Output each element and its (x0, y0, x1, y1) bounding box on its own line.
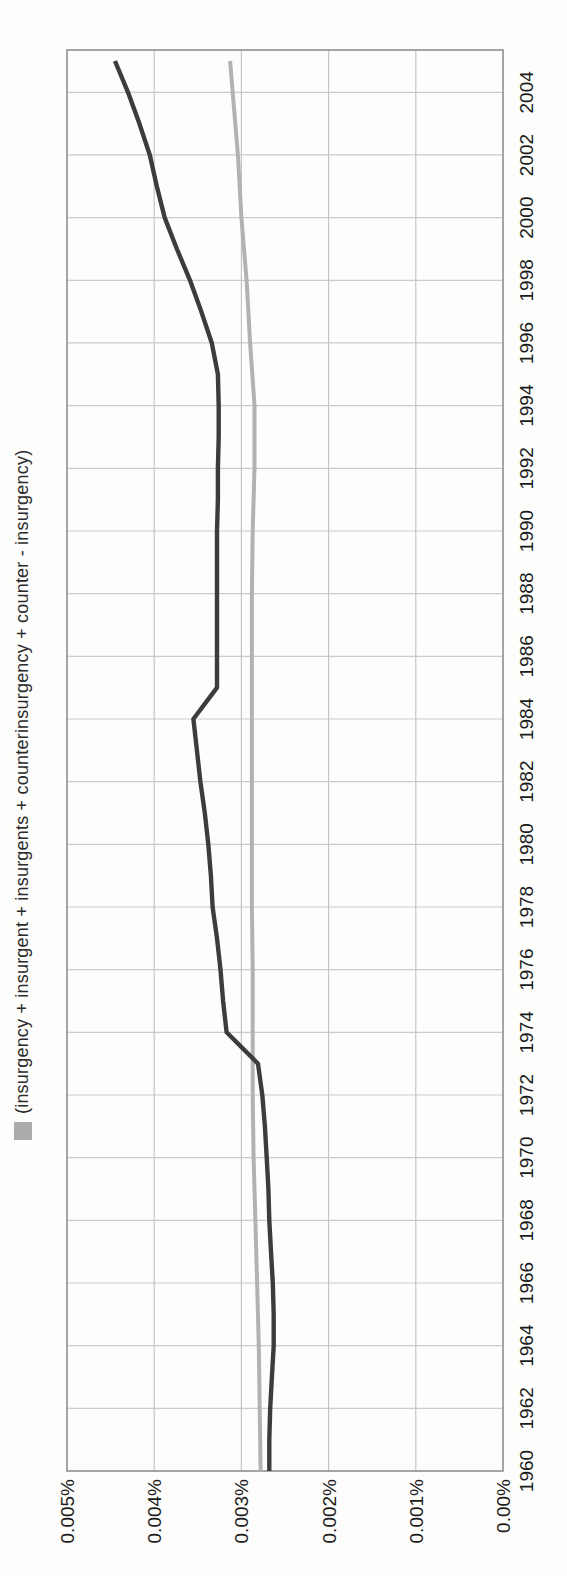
x-tick-label: 1984 (516, 697, 537, 740)
y-tick-label: 0.004% (144, 1479, 165, 1544)
x-tick-label: 1976 (516, 949, 537, 991)
year-gridlines (67, 92, 503, 1408)
ngram-chart-rotated: (insurgency + insurgent + insurgents + c… (0, 0, 567, 1576)
series-line-0 (230, 61, 261, 1471)
x-tick-label: 1988 (516, 573, 537, 615)
y-tick-label: 0.005% (57, 1479, 78, 1544)
x-tick-label: 1990 (516, 510, 537, 552)
value-gridlines (154, 50, 416, 1471)
y-axis-labels: 0.005%0.004%0.003%0.002%0.001%0.00% (57, 1479, 514, 1544)
x-tick-label: 1986 (516, 635, 537, 677)
x-tick-label: 1972 (516, 1074, 537, 1116)
x-tick-label: 1962 (516, 1387, 537, 1429)
x-tick-label: 2002 (516, 134, 537, 176)
x-tick-label: 1966 (516, 1262, 537, 1304)
x-tick-label: 1978 (516, 886, 537, 928)
x-tick-label: 1994 (516, 384, 537, 427)
y-tick-label: 0.00% (493, 1479, 514, 1533)
x-tick-label: 1960 (516, 1450, 537, 1492)
x-tick-label: 1974 (516, 1011, 537, 1054)
plot-border (67, 50, 503, 1471)
x-tick-label: 1968 (516, 1199, 537, 1241)
y-tick-label: 0.001% (406, 1479, 427, 1544)
x-tick-label: 1996 (516, 322, 537, 364)
x-tick-label: 2004 (516, 71, 537, 114)
x-tick-label: 1970 (516, 1137, 537, 1179)
x-tick-label: 1992 (516, 447, 537, 489)
x-tick-label: 1980 (516, 823, 537, 865)
x-tick-label: 2000 (516, 196, 537, 238)
x-axis-labels: 1960196219641966196819701972197419761978… (516, 71, 537, 1492)
page: (insurgency + insurgent + insurgents + c… (0, 0, 567, 1576)
x-tick-label: 1982 (516, 761, 537, 803)
x-tick-label: 1998 (516, 259, 537, 301)
series-line-1 (115, 61, 274, 1471)
chart-svg: 1960196219641966196819701972197419761978… (0, 0, 567, 1576)
x-tick-label: 1964 (516, 1324, 537, 1367)
y-tick-label: 0.002% (319, 1479, 340, 1544)
y-tick-label: 0.003% (231, 1479, 252, 1544)
